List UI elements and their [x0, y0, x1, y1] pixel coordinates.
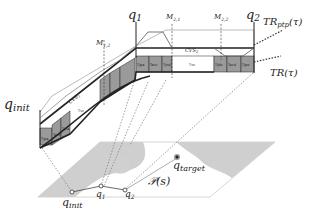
tr-label: TR(τ) [270, 67, 298, 78]
seg2-tjpo: Tjpo [241, 63, 249, 67]
workspace-plane [38, 142, 275, 197]
seg1-vc-label: Tvc [77, 109, 84, 113]
seg2-tjnd: Tjnd [162, 63, 171, 67]
trajectory-diagram: Tvc Tjpa Tacc Tjnd Tjdo Tacd Tjpo Tjpa T… [0, 0, 321, 217]
path-label: 𝒫(s) [148, 175, 170, 188]
m22-label: M2,2 [213, 13, 228, 22]
seg1-tjna: Tjna [61, 127, 69, 131]
seg1-tacc: Tacc [52, 133, 61, 137]
q2-label: q2 [246, 7, 260, 23]
m12-label: M1,2 [95, 39, 110, 48]
q-init-point [70, 190, 74, 194]
q1-point [99, 184, 103, 188]
m21-label: M2,1 [165, 13, 180, 22]
tr-ptp-label: TRptp(τ) [263, 16, 302, 29]
seg1-tjpa: Tjpa [40, 137, 48, 141]
q-init-label: qinit [4, 96, 31, 113]
seg2-tjpa: Tjpa [136, 63, 144, 67]
q-init-floor-label: qinit [62, 196, 83, 210]
seg2-tjdo: Tjdo [214, 63, 222, 67]
seg2-tacd: Tacd [227, 63, 236, 67]
q1-label: q1 [128, 7, 142, 23]
trajectory-ribbon [40, 22, 283, 148]
seg2-tacc: Tacc [149, 63, 158, 67]
seg2-vc-label: Tvc [188, 63, 195, 67]
